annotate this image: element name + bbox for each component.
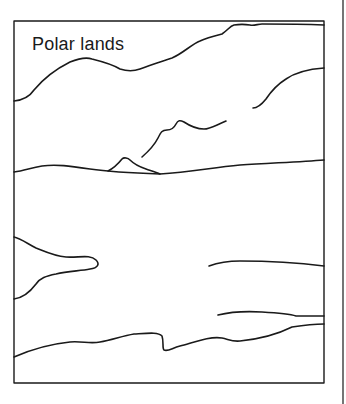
coastline-middle xyxy=(14,160,324,174)
map-border xyxy=(14,21,324,383)
coastline-mountain xyxy=(142,121,226,157)
coastline-right-middle xyxy=(209,261,324,266)
coastline-peninsula xyxy=(14,237,98,299)
polar-lands-diagram: Polar lands xyxy=(0,0,346,404)
coastline-bottom xyxy=(14,324,324,357)
coastline-drawing xyxy=(0,0,346,404)
coastline-right-lower xyxy=(218,312,324,316)
coastline-upper-right xyxy=(253,68,324,108)
diagram-title: Polar lands xyxy=(32,34,124,55)
